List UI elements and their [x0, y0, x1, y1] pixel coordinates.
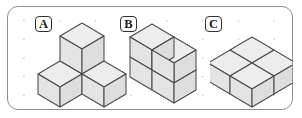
figure-label-b: B — [120, 16, 137, 32]
figure-label-a: A — [35, 16, 52, 32]
figure-b-cubes — [126, 7, 206, 110]
rounded-panel: A B C — [7, 6, 293, 110]
figure-label-c: C — [205, 16, 222, 32]
figures-layer: A B C — [8, 7, 292, 109]
figure-c-cubes — [210, 7, 293, 110]
figure-panel-stage: A B C — [0, 0, 302, 118]
